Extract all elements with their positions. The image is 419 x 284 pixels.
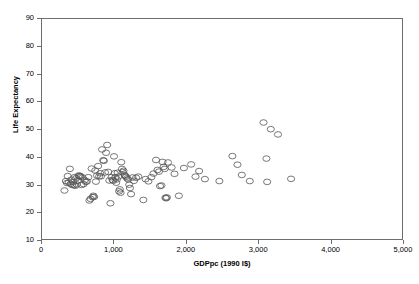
data-point [107,200,114,206]
x-axis-tick [186,240,187,244]
data-point [171,171,178,177]
x-axis-tick [113,240,114,244]
data-point [260,120,267,126]
data-point [287,176,294,182]
x-axis-title: GDPpc (1990 I$) [41,259,403,268]
x-axis-tick-label: 4,000 [308,246,354,254]
y-axis-title: Life Expectancy [11,45,20,165]
data-point [127,191,134,197]
data-point [117,190,124,196]
x-axis-tick [403,240,404,244]
y-axis-tick-label: 30 [4,181,34,189]
y-axis-tick-label: 10 [4,236,34,244]
data-points-layer [42,19,402,239]
x-axis-tick [331,240,332,244]
data-point [66,166,73,172]
data-point [61,188,68,194]
data-point [246,178,253,184]
data-point [180,165,187,171]
y-axis-tick-label: 20 [4,208,34,216]
data-point [92,179,99,185]
data-point [267,126,274,132]
data-point [104,142,111,148]
plot-area [41,18,403,240]
data-point [216,178,223,184]
data-point [238,172,245,178]
scatter-markers [42,19,404,241]
data-point [263,156,270,162]
data-point [102,150,109,156]
data-point [264,179,271,185]
y-axis-tick-label: 90 [4,14,34,22]
x-axis-tick [258,240,259,244]
data-point [274,132,281,138]
data-point [126,185,133,191]
data-point [234,162,241,168]
x-axis-tick-label: 5,000 [380,246,419,254]
x-axis-tick-label: 2,000 [163,246,209,254]
data-point [196,168,203,174]
x-axis-tick-label: 1,000 [90,246,136,254]
data-point [229,153,236,159]
data-point [201,176,208,182]
data-point [140,197,147,203]
data-point [110,154,117,160]
data-point [168,165,175,171]
data-point [118,159,125,165]
data-point [161,166,168,172]
data-point [175,193,182,199]
x-axis-tick [41,240,42,244]
x-axis-tick-label: 0 [18,246,64,254]
data-point [192,174,199,180]
scatter-chart-figure: 102030405060708090 01,0002,0003,0004,000… [0,0,419,284]
data-point [188,162,195,168]
x-axis-tick-label: 3,000 [235,246,281,254]
